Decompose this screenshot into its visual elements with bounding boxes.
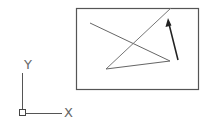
line-b[interactable]	[106, 8, 171, 69]
line-c[interactable]	[106, 61, 170, 69]
arrow[interactable]	[166, 18, 179, 60]
drawing-frame[interactable]	[77, 9, 199, 90]
ucs-icon: X Y	[20, 57, 74, 120]
ucs-origin-square	[20, 110, 26, 116]
ucs-y-label: Y	[23, 57, 32, 72]
line-a[interactable]	[90, 23, 170, 61]
arrow-shaft	[169, 24, 178, 60]
arrowhead-icon	[166, 18, 172, 27]
ucs-x-label: X	[64, 105, 73, 120]
drawing-canvas[interactable]: X Y	[0, 0, 214, 127]
